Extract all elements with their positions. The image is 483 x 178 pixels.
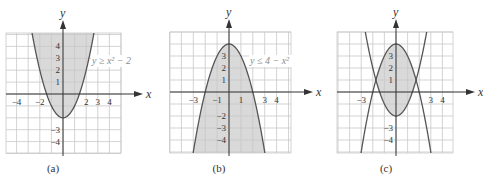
x-tick-label: 3 [96,97,101,107]
y-tick-label: −3 [383,123,393,133]
y-tick-label: −3 [216,123,226,133]
x-tick-label: −1 [212,95,222,105]
inequality-graphs-figure: xy−4−22344321−3−4y ≥ x² − 2xy−3−1134321−… [0,0,483,178]
y-tick-label: 3 [389,51,394,61]
y-axis-label: y [392,5,399,19]
y-tick-label: 2 [56,65,61,75]
y-tick-label: −3 [50,125,60,135]
y-tick-label: 3 [56,53,61,63]
x-axis-arrow-icon [466,89,475,95]
graph-panel-b: xy−3−1134321−2−3−4y ≤ 4 − x² [170,5,323,178]
y-axis-arrow-icon [393,19,399,28]
x-axis-arrow-icon [134,91,143,97]
x-tick-label: 3 [429,95,434,105]
caption-c: (c) [366,162,406,174]
graph-panel-c: xy−334321−3−4 [337,0,483,178]
x-tick-label: 3 [262,95,267,105]
inequality-label: y ≤ 4 − x² [249,55,290,66]
x-axis-arrow-icon [304,89,313,95]
y-tick-label: 1 [222,75,227,85]
inequality-label: y ≥ x² − 2 [91,55,131,66]
x-axis-label: x [477,85,483,99]
y-tick-label: −4 [383,135,393,145]
x-tick-label: 2 [84,97,89,107]
y-tick-label: −4 [216,135,226,145]
caption-b: (b) [199,162,239,174]
x-tick-label: −4 [12,97,22,107]
y-axis-arrow-icon [226,19,232,28]
y-tick-label: 2 [389,63,394,73]
y-axis-label: y [59,6,66,20]
x-tick-label: −3 [356,95,366,105]
y-tick-label: 1 [56,77,61,87]
x-tick-label: 4 [440,95,445,105]
x-axis-label: x [145,87,152,101]
x-tick-label: −3 [189,95,199,105]
graph-panel-a: xy−4−22344321−3−4y ≥ x² − 2 [6,0,152,156]
y-tick-label: 1 [389,75,394,85]
x-axis-label: x [315,85,322,99]
y-tick-label: −2 [216,111,226,121]
y-axis-label: y [225,5,232,19]
y-tick-label: −4 [50,137,60,147]
x-tick-label: 4 [107,97,112,107]
x-tick-label: −2 [35,97,45,107]
x-tick-label: 4 [274,95,279,105]
x-tick-label: 1 [239,95,244,105]
y-axis-arrow-icon [60,20,66,29]
graphs-canvas: xy−4−22344321−3−4y ≥ x² − 2xy−3−1134321−… [0,0,483,178]
y-tick-label: 2 [222,63,227,73]
caption-a: (a) [33,162,73,174]
y-tick-label: 3 [222,51,227,61]
y-tick-label: 4 [56,41,61,51]
